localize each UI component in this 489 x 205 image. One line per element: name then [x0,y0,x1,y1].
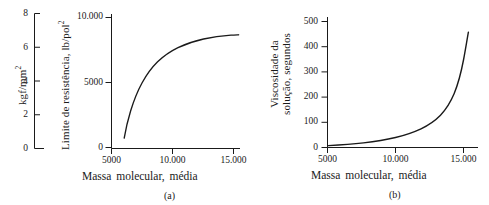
chart-b-ytick-300: 300 [288,66,318,76]
chart-a-secondary-ytick-2: 2 [6,109,28,119]
chart-a-ytick-5000: 5000 [62,77,103,87]
chart-b-xtick-10000: 10.000 [370,154,421,164]
chart-a-ylabel-text: Limite de resistência, lb/pol [59,24,71,150]
chart-b-curve [329,32,469,145]
chart-a-secondary-ytick-4: 4 [6,76,28,86]
chart-b-xlabel: Massa molecular, média [311,169,427,181]
chart-b-axes [322,17,479,153]
chart-a-secondary-ytick-6: 6 [6,42,28,52]
chart-a-ytick-0: 0 [62,142,103,152]
chart-b-ylabel-line1: Viscosidade da [268,40,280,108]
chart-a-secondary-axis [35,14,45,149]
chart-panel-b: Viscosidade dasolução, segundos 500 400 … [250,0,489,205]
chart-b-ytick-500: 500 [288,16,318,26]
chart-a-secondary-ytick-0: 0 [6,143,28,153]
chart-b-ytick-100: 100 [288,116,318,126]
chart-b-ytick-0: 0 [288,142,318,152]
chart-b-caption: (b) [389,189,401,200]
chart-a-xtick-10000: 10.000 [147,155,198,165]
chart-panel-a: kgf/mm2 Limite de resistência, lb/pol2 8… [0,0,250,205]
figure-container: kgf/mm2 Limite de resistência, lb/pol2 8… [0,0,489,205]
chart-a-xtick-5000: 5000 [86,155,137,165]
chart-a-ytick-10000: 10.000 [62,11,103,21]
chart-b-ytick-400: 400 [288,41,318,51]
chart-a-ylabel-sup: 2 [57,20,66,24]
chart-b-xtick-15000: 15.000 [438,154,489,164]
chart-a-caption: (a) [164,190,175,201]
chart-a-xlabel: Massa molecular, média [82,170,198,182]
chart-a-secondary-ylabel-sup: 2 [14,66,23,70]
chart-b-xtick-5000: 5000 [302,154,353,164]
chart-a-secondary-ytick-8: 8 [6,8,28,18]
chart-a-curve [124,35,238,138]
chart-b-ytick-200: 200 [288,91,318,101]
